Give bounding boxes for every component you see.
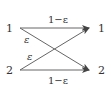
output-node-1-label: 1 — [98, 22, 105, 35]
channel-diagram: 1 2 1 2 1−ε ε ε 1−ε — [0, 0, 111, 91]
input-node-2-label: 2 — [6, 64, 13, 77]
edge-label-2-to-2: 1−ε — [48, 75, 68, 86]
edge-label-1-to-1: 1−ε — [48, 14, 68, 25]
input-node-1-label: 1 — [6, 22, 13, 35]
edge-label-2-to-1: ε — [27, 51, 32, 62]
edge-label-1-to-2: ε — [24, 34, 29, 45]
output-node-2-label: 2 — [98, 64, 105, 77]
